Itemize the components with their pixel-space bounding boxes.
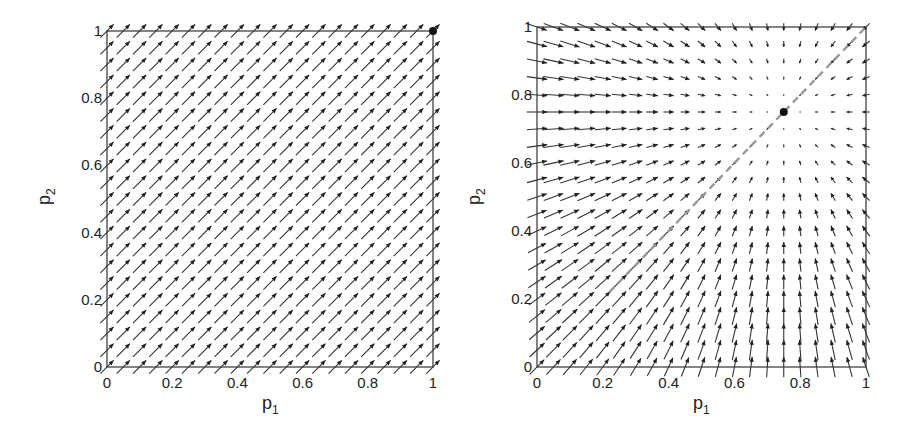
x-tick-label: 0 <box>103 374 111 391</box>
y-tick-label: 0 <box>94 358 102 375</box>
arrow-head <box>637 210 642 215</box>
arrow-head <box>542 93 547 97</box>
arrow-head <box>542 60 547 64</box>
y-tick-label: 0.4 <box>511 222 532 239</box>
arrow-head <box>701 323 705 328</box>
arrow-head <box>830 340 834 345</box>
arrow-head <box>621 43 626 47</box>
arrow-head <box>782 258 786 263</box>
arrow-head <box>782 307 786 312</box>
arrow-head <box>733 340 737 345</box>
arrow-head <box>749 275 753 280</box>
arrow-head <box>620 358 625 363</box>
arrow-head <box>558 160 563 164</box>
x-tick-label: 0.4 <box>227 374 248 391</box>
arrow-head <box>590 143 595 147</box>
arrow-head <box>846 323 850 328</box>
x-tick-label: 0 <box>533 374 541 391</box>
x-tick-label: 1 <box>862 374 870 391</box>
arrow-head <box>606 76 611 80</box>
arrow-head <box>606 143 611 147</box>
arrow-head <box>814 323 818 328</box>
arrow-head <box>685 357 689 362</box>
left-equilibrium-dot <box>429 27 437 35</box>
arrow-head <box>604 359 609 364</box>
arrow-head <box>783 61 785 63</box>
arrow-head <box>637 76 642 80</box>
right-y-axis-label: p2 <box>464 188 488 205</box>
left-vector-field-arrows <box>100 24 439 373</box>
arrow-head <box>733 242 737 247</box>
arrow-head <box>749 323 753 328</box>
arrow-head <box>637 60 642 64</box>
arrow-head <box>558 60 563 64</box>
arrow-head <box>830 275 834 280</box>
arrow-head <box>782 177 785 180</box>
arrow-head <box>541 210 546 214</box>
arrow-head <box>573 259 578 264</box>
arrow-head <box>653 160 658 164</box>
equilibrium-dot <box>780 108 788 116</box>
arrow-head <box>798 307 802 312</box>
arrow-head <box>830 357 834 362</box>
arrow-head <box>621 143 626 147</box>
y-tick-label: 1 <box>524 18 532 35</box>
arrow-head <box>717 307 721 312</box>
arrow-head <box>558 43 563 47</box>
arrow-head <box>637 160 642 164</box>
arrow-head <box>765 226 769 231</box>
left-y-tick-labels: 00.20.40.60.81 <box>81 22 102 375</box>
arrow-head <box>590 126 595 130</box>
arrow-head <box>621 76 626 80</box>
arrow-head <box>798 226 802 231</box>
arrow-head <box>590 242 595 247</box>
arrow-head <box>847 111 850 114</box>
arrow-head <box>653 59 658 63</box>
arrow-head <box>684 177 689 181</box>
y-tick-label: 0.8 <box>81 89 102 106</box>
arrow-head <box>749 258 753 263</box>
left-quiver-plot: 00.20.40.60.81 00.20.40.60.81 p1 p2 <box>34 22 440 417</box>
arrow-head <box>669 127 674 131</box>
arrow-head <box>541 193 546 197</box>
arrow-head <box>684 42 689 46</box>
y-tick-label: 0.4 <box>81 224 102 241</box>
arrow-head <box>782 44 785 47</box>
y-tick-label: 1 <box>94 22 102 39</box>
arrow-head <box>653 291 658 296</box>
x-tick-label: 0.8 <box>790 374 811 391</box>
arrow-head <box>782 242 786 247</box>
arrow-head <box>653 110 658 114</box>
right-x-axis-label: p1 <box>693 393 710 417</box>
arrow-head <box>542 160 547 164</box>
arrow-head <box>637 341 642 346</box>
right-y-tick-labels: 00.20.40.60.81 <box>511 18 532 375</box>
arrow-head <box>574 43 579 47</box>
arrow-head <box>621 177 626 181</box>
arrow-head <box>574 193 579 197</box>
arrow-head <box>782 275 786 280</box>
arrow-head <box>590 76 595 80</box>
right-x-tick-labels: 00.20.40.60.81 <box>533 374 870 391</box>
arrow-head <box>557 259 562 264</box>
arrow-head <box>814 275 818 280</box>
y-tick-label: 0.2 <box>511 290 532 307</box>
right-equilibrium-dot <box>780 108 788 116</box>
right-quiver-plot: 00.20.40.60.81 00.20.40.60.81 p1 p2 <box>464 18 870 417</box>
arrow-head <box>701 340 705 345</box>
arrow-head <box>621 226 626 231</box>
arrow-head <box>540 276 545 281</box>
arrow-head <box>718 111 721 114</box>
arrow-head <box>637 143 642 147</box>
arrow-head <box>590 177 595 181</box>
figure: 00.20.40.60.81 00.20.40.60.81 p1 p2 00.2… <box>0 0 910 443</box>
equilibrium-dot <box>429 27 437 35</box>
y-tick-label: 0 <box>524 358 532 375</box>
arrow-head <box>590 43 595 47</box>
arrow-head <box>846 307 850 312</box>
arrow-head <box>733 357 737 362</box>
x-tick-label: 0.6 <box>724 374 745 391</box>
arrow-head <box>846 275 850 280</box>
arrow-head <box>735 111 737 113</box>
arrow-head <box>733 275 737 280</box>
